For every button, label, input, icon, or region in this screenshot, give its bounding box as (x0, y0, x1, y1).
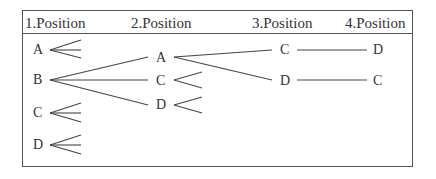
node-l1-d: D (33, 138, 43, 152)
node-l4-d: D (373, 43, 383, 57)
node-l1-c: C (33, 106, 42, 120)
node-l3-d: D (280, 74, 290, 88)
node-l3-c: C (280, 43, 289, 57)
node-l1-b: B (33, 73, 42, 87)
node-l2-a: A (156, 51, 166, 65)
node-l4-c: C (373, 74, 382, 88)
node-l1-a: A (33, 43, 43, 57)
node-l2-d: D (156, 98, 166, 112)
tree-edges (0, 0, 436, 179)
node-l2-c: C (156, 74, 165, 88)
